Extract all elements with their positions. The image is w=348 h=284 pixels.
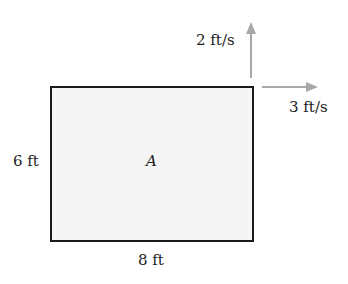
vertical-velocity-label: 2 ft/s <box>196 31 235 49</box>
region-label: A <box>146 152 157 170</box>
width-label: 8 ft <box>138 251 164 269</box>
vertical-arrow-icon <box>246 22 256 78</box>
velocity-arrows <box>0 0 348 284</box>
height-label: 6 ft <box>13 152 39 170</box>
horizontal-arrow-icon <box>262 82 318 92</box>
horizontal-velocity-label: 3 ft/s <box>289 98 328 116</box>
